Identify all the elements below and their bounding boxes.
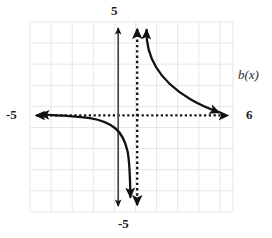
function-graph-figure: 5 -5 -5 6 b(x): [0, 0, 272, 238]
y-axis-min-label: -5: [118, 217, 129, 230]
grid-lines: [30, 22, 233, 212]
curve-branch-upper-right: [147, 30, 219, 112]
x-axis-min-label: -5: [6, 108, 17, 121]
x-axis-max-label: 6: [246, 108, 253, 121]
curve-branch-lower-left: [40, 115, 130, 197]
graph-canvas: [0, 0, 272, 238]
function-name-label: b(x): [238, 68, 259, 81]
y-axis-max-label: 5: [111, 4, 118, 17]
